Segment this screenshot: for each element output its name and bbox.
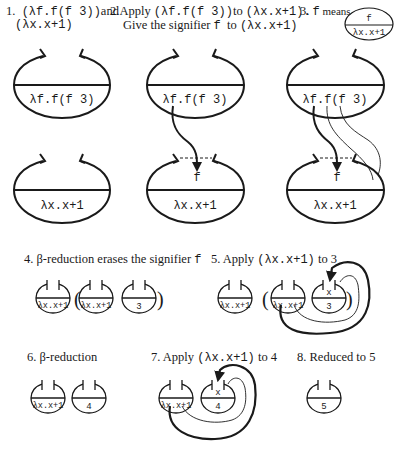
legend-oval: f λx.x+1: [345, 8, 393, 40]
legend-signifier: f: [366, 14, 371, 24]
variable-x: x: [215, 388, 220, 398]
value-three: 3: [326, 302, 331, 312]
term-lambda-x: λx.x+1: [313, 199, 356, 213]
legend-term: λx.x+1: [353, 28, 385, 38]
term-lambda-f: λf.f(f 3): [163, 93, 228, 107]
value-four: 4: [215, 402, 220, 412]
close-paren: ): [157, 288, 164, 311]
close-paren: ): [346, 288, 353, 311]
term-lambda-x: λx.x+1: [38, 301, 69, 311]
open-paren: (: [262, 288, 269, 311]
value-four: 4: [86, 402, 91, 412]
binding-wire: [182, 378, 246, 422]
term-lambda-x: λx.x+1: [161, 401, 192, 411]
term-lambda-f: λf.f(f 3): [303, 93, 368, 107]
term-lambda-f: λf.f(f 3): [30, 93, 95, 107]
signifier-f: f: [193, 171, 200, 185]
variable-x: x: [326, 288, 331, 298]
bubble-lambda-f-2: [147, 49, 244, 118]
bubble-lambda-f-3: [287, 49, 384, 118]
bubble-lambda-f-1: [14, 49, 110, 118]
term-lambda-x: λx.x+1: [81, 301, 112, 311]
term-lambda-x: λx.x+1: [173, 199, 216, 213]
signifier-f: f: [333, 171, 340, 185]
term-lambda-x: λx.x+1: [220, 301, 251, 311]
value-three: 3: [136, 302, 141, 312]
diagram-canvas: f λx.x+1 λf.f(f 3) λx.x+1 λf.f(f 3) f λx…: [0, 0, 398, 451]
term-lambda-x: λx.x+1: [273, 301, 304, 311]
term-lambda-x: λx.x+1: [33, 401, 64, 411]
term-lambda-x: λx.x+1: [40, 199, 83, 213]
value-five: 5: [321, 402, 326, 412]
